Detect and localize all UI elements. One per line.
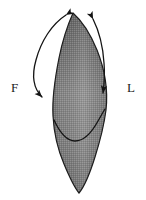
label-f: F (11, 81, 18, 94)
spindle-body (45, 8, 115, 198)
figure-root: F L (0, 0, 146, 200)
figure-canvas (0, 0, 146, 200)
spindle-body-stipple-texture (45, 8, 115, 198)
label-l: L (127, 81, 135, 94)
